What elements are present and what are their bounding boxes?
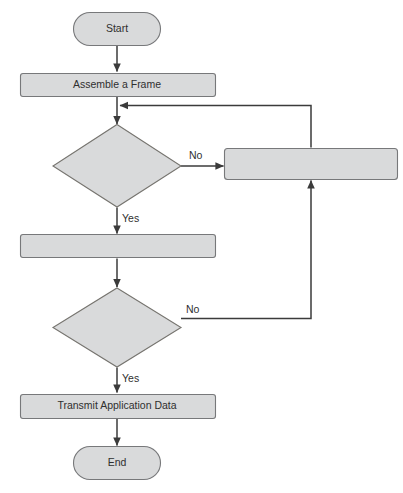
node-middle-process xyxy=(21,235,216,258)
flowchart-diagram: Start Assemble a Frame Transmit Applicat… xyxy=(0,0,403,493)
edge-label-decision1-yes: Yes xyxy=(122,212,139,224)
edge-label-decision1-no: No xyxy=(189,149,203,161)
node-decision-1 xyxy=(53,125,181,208)
edge-label-decision2-no: No xyxy=(186,303,200,315)
node-end-label: End xyxy=(108,456,127,468)
connector-right-process-loopback xyxy=(120,106,311,148)
node-transmit-application-data-label: Transmit Application Data xyxy=(57,399,176,411)
node-assemble-a-frame-label: Assemble a Frame xyxy=(73,78,161,90)
edge-label-decision2-yes: Yes xyxy=(122,372,139,384)
node-start-label: Start xyxy=(106,22,128,34)
flowchart-canvas: Start Assemble a Frame Transmit Applicat… xyxy=(0,0,403,493)
node-right-process xyxy=(225,149,398,180)
node-decision-2 xyxy=(53,288,181,367)
